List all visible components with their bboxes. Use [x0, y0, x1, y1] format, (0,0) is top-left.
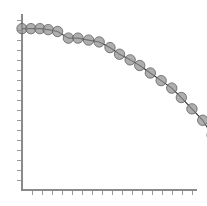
data-point-marker: [83, 35, 93, 45]
data-point-marker: [105, 42, 115, 52]
data-point-marker: [52, 26, 62, 36]
data-point-marker: [167, 83, 177, 93]
data-point-marker: [176, 92, 186, 102]
chart-figure: [0, 0, 207, 206]
data-point-marker: [145, 68, 155, 78]
chart-canvas: [0, 0, 207, 206]
data-point-marker: [125, 55, 135, 65]
data-point-marker: [63, 33, 73, 43]
data-point-marker: [156, 75, 166, 85]
data-point-marker: [198, 115, 207, 125]
data-point-marker: [73, 33, 83, 43]
data-point-marker: [187, 104, 197, 114]
data-point-marker: [94, 37, 104, 47]
data-point-marker: [114, 49, 124, 59]
data-point-marker: [135, 60, 145, 70]
data-point-marker: [43, 24, 53, 34]
